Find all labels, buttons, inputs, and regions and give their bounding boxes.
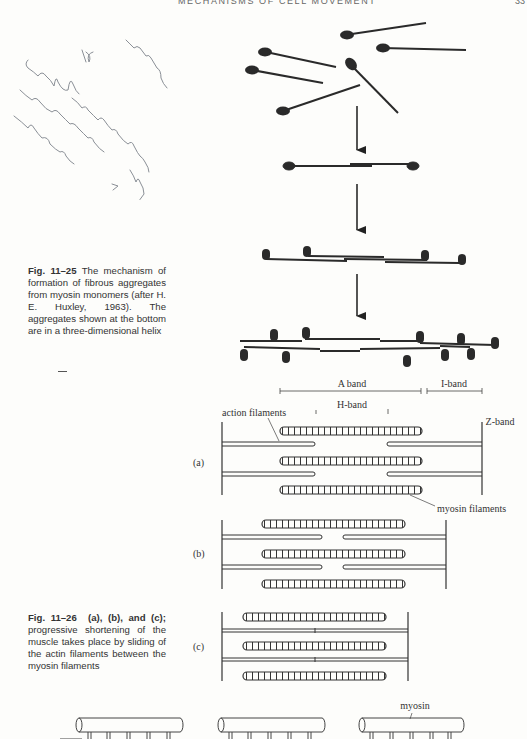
myosin-rod-3	[359, 713, 464, 739]
panel-c-label: (c)	[193, 641, 204, 653]
band-brackets	[280, 388, 482, 414]
a-band-label: A band	[338, 378, 367, 389]
myosin-rod-2	[218, 718, 325, 739]
h-band-label: H-band	[337, 399, 367, 410]
myosin-rod-1	[60, 718, 183, 739]
panel-a-label: (a)	[193, 457, 204, 469]
figure-11-26-diagram: A band I-band H-band Z-band action filam…	[0, 0, 527, 739]
panel-c	[222, 612, 408, 681]
actin-label: action filaments	[222, 407, 286, 418]
myosin-filaments-label: myosin filaments	[437, 503, 506, 514]
i-band-label: I-band	[441, 378, 467, 389]
myosin-label: myosin	[400, 700, 429, 711]
bottom-myosin-rods	[60, 713, 464, 739]
panel-a	[222, 422, 482, 495]
panel-b-label: (b)	[193, 548, 205, 560]
panel-b	[222, 520, 446, 589]
z-band-label: Z-band	[486, 416, 515, 427]
